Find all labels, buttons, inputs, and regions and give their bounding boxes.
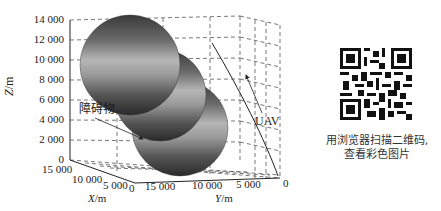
x-axis-label: X/m [88,193,106,204]
x-tick: 5 000 [103,180,128,191]
z-axis-label: Z/m [2,77,17,96]
qr-caption: 用浏览器扫描二维码, 查看彩色图片 [318,134,436,162]
y-axis-label: Y/m [215,193,233,204]
y-tick: 10 000 [192,180,222,191]
z-tick: 14 000 [4,14,64,25]
x-tick: 0 [129,183,135,194]
x-tick: 10 000 [72,174,102,185]
qr-caption-line1: 用浏览器扫描二维码, [318,134,436,148]
obstacle-annotation: 障碍物 [79,104,115,115]
3d-obstacle-chart: 14 000 12 000 10 000 8 000 6 000 4 000 2… [0,0,300,211]
z-tick: 12 000 [4,34,64,45]
y-tick: 5 000 [236,179,261,190]
qr-code-icon [340,48,412,120]
qr-caption-line2: 查看彩色图片 [318,148,436,162]
y-tick: 15 000 [145,181,175,192]
x-tick: 15 000 [42,164,72,175]
qr-code[interactable] [340,48,412,120]
z-tick: 2 000 [4,134,64,145]
uav-annotation: UAV [255,116,279,127]
z-tick: 4 000 [4,114,64,125]
y-tick: 0 [283,178,289,189]
obstacle-spheres [80,15,228,176]
z-tick: 10 000 [4,54,64,65]
